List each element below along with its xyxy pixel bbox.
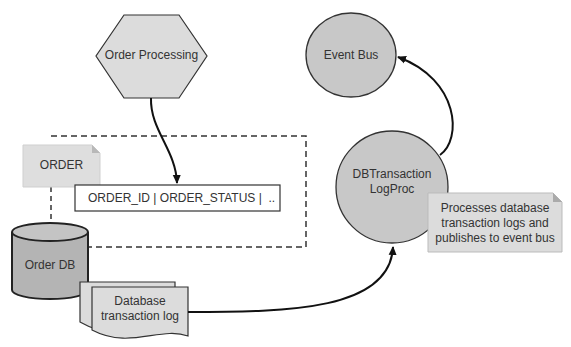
tx-log-label: Database transaction log xyxy=(92,292,188,326)
log-to-processor-arrow xyxy=(188,247,393,312)
processing-to-table-arrow xyxy=(151,98,177,183)
tx-log-label-line2: transaction log xyxy=(101,309,179,324)
dbtx-logproc-label: DBTransaction LogProc xyxy=(336,165,448,199)
tx-log-label-line1: Database xyxy=(114,294,165,309)
order-db-label: Order DB xyxy=(12,250,88,280)
event-bus-label: Event Bus xyxy=(306,40,396,70)
dbtx-logproc-label-line2: LogProc xyxy=(370,182,415,197)
processor-note-line3: publishes to event bus xyxy=(435,231,554,246)
processor-note-label: Processes database transaction logs and … xyxy=(428,198,562,248)
dbtx-logproc-label-line1: DBTransaction xyxy=(353,167,432,182)
order-processing-label: Order Processing xyxy=(96,40,207,70)
processor-note-line1: Processes database xyxy=(441,201,550,216)
order-note-label: ORDER xyxy=(23,150,100,180)
processor-note-line2: transaction logs and xyxy=(441,216,548,231)
order-table-row-label: ORDER_ID | ORDER_STATUS | .. xyxy=(76,185,279,211)
